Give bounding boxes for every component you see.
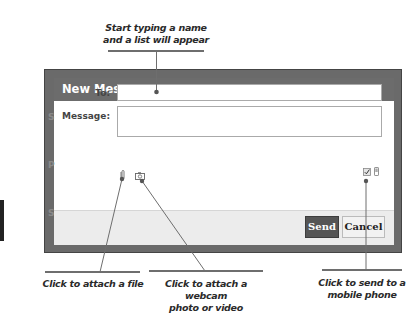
mobile-phone-icon — [374, 167, 379, 176]
callout-file-rule — [45, 271, 140, 273]
callout-to-field: Start typing a name and a list will appe… — [90, 22, 222, 46]
background-dark-bar — [0, 200, 4, 241]
callout-to-rule — [108, 50, 204, 52]
send-button[interactable]: Send — [305, 216, 339, 238]
callout-to-line2: and a list will appear — [90, 34, 222, 46]
camera-icon[interactable] — [135, 172, 145, 180]
callout-webcam: Click to attach a webcam photo or video — [144, 278, 268, 314]
to-input[interactable] — [117, 84, 382, 101]
cancel-button[interactable]: Cancel — [342, 216, 385, 238]
to-label: To: — [50, 88, 110, 98]
callout-mobile-line2: mobile phone — [318, 289, 406, 301]
message-label: Message: — [50, 111, 110, 121]
callout-webcam-rule — [149, 270, 263, 272]
checkbox-checked-icon[interactable] — [363, 168, 371, 176]
callout-webcam-line1: Click to attach a webcam — [144, 278, 268, 302]
background-letter: P — [48, 160, 55, 170]
callout-mobile-line1: Click to send to a — [318, 277, 406, 289]
callout-mobile-rule — [322, 269, 402, 271]
callout-mobile: Click to send to a mobile phone — [318, 277, 406, 301]
message-textarea[interactable] — [117, 106, 382, 137]
callout-webcam-line2: photo or video — [144, 302, 268, 314]
paperclip-icon[interactable] — [120, 170, 125, 180]
callout-attach-file: Click to attach a file — [40, 278, 146, 290]
callout-to-line1: Start typing a name — [90, 22, 222, 34]
